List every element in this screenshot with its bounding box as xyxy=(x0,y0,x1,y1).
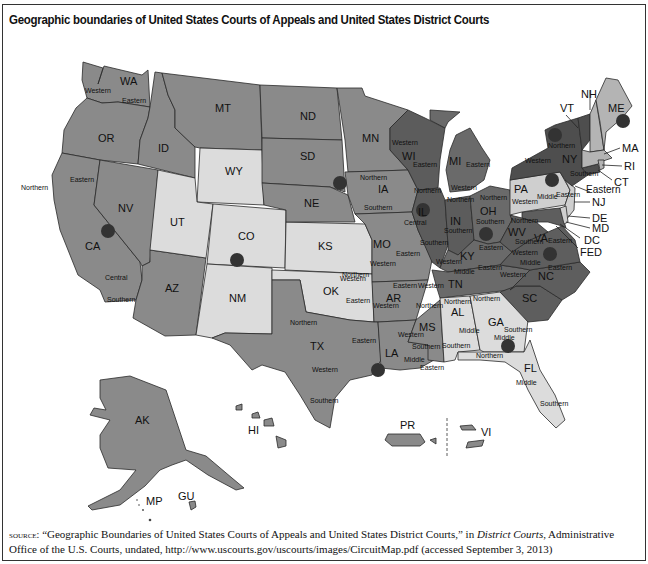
label-FL: FL xyxy=(524,362,537,374)
label-OK: OK xyxy=(323,285,340,297)
label-PA: PA xyxy=(514,183,529,195)
label-IA: IA xyxy=(378,183,389,195)
label-MD: MD xyxy=(592,222,609,234)
district-CA-central: Central xyxy=(105,274,128,281)
label-ID: ID xyxy=(158,142,169,154)
district-KY-western: Western xyxy=(436,258,462,265)
circuit-marker-10[interactable] xyxy=(230,253,244,267)
district-VA-eastern: Eastern xyxy=(548,237,572,244)
state-AK[interactable] xyxy=(88,376,244,510)
state-OR[interactable] xyxy=(62,98,150,164)
district-GA-northern: Northern xyxy=(473,295,500,302)
district-AR-eastern: Eastern xyxy=(393,282,417,289)
district-MI-western: Western xyxy=(451,184,477,191)
district-FL-middle: Middle xyxy=(516,379,537,386)
label-MP: MP xyxy=(146,495,163,507)
district-WA-eastern: Eastern xyxy=(122,97,146,104)
circuit-marker-4[interactable] xyxy=(543,247,557,261)
label-IN: IN xyxy=(450,215,461,227)
circuit-marker-2[interactable] xyxy=(548,128,562,142)
district-AL-southern: Southern xyxy=(442,342,471,349)
label-WY: WY xyxy=(225,165,243,177)
district-TX-eastern: Eastern xyxy=(352,337,376,344)
district-AL-northern: Northern xyxy=(444,298,471,305)
label-SC: SC xyxy=(522,292,537,304)
district-CA-southern: Southern xyxy=(107,296,136,303)
district-IN-southern: Southern xyxy=(444,227,473,234)
district-TN-eastern: Eastern xyxy=(478,264,502,271)
district-FL-northern: Northern xyxy=(476,352,503,359)
label-OH: OH xyxy=(480,205,497,217)
district-GA-middle: Middle xyxy=(494,334,515,341)
circuit-marker-9[interactable] xyxy=(101,224,115,238)
circuit-marker-5[interactable] xyxy=(371,363,385,377)
state-PR[interactable] xyxy=(385,434,436,446)
label-NE: NE xyxy=(304,197,319,209)
district-LA-eastern: Eastern xyxy=(420,364,444,371)
district-TX-southern: Southern xyxy=(310,397,339,404)
district-WV-southern: Southern xyxy=(515,238,544,245)
label-DC: DC xyxy=(584,234,600,246)
label-KY: KY xyxy=(460,250,475,262)
district-NC-western: Western xyxy=(500,271,526,278)
label-VI: VI xyxy=(481,426,491,438)
label-NM: NM xyxy=(229,292,246,304)
circuit-marker-3[interactable] xyxy=(545,173,559,187)
district-TN-middle: Middle xyxy=(454,268,475,275)
district-NY-southern: Southern xyxy=(570,170,599,177)
label-TX: TX xyxy=(310,340,325,352)
district-TN-western: Western xyxy=(418,282,444,289)
label-TN: TN xyxy=(448,278,463,290)
circuit-marker-11[interactable] xyxy=(501,339,515,353)
label-AL: AL xyxy=(451,306,464,318)
label-CO: CO xyxy=(238,230,255,242)
state-HI[interactable] xyxy=(236,404,286,448)
label-NH: NH xyxy=(581,88,597,100)
circuit-marker-1[interactable] xyxy=(616,114,630,128)
district-KY-eastern: Eastern xyxy=(479,244,503,251)
label-AK: AK xyxy=(135,414,150,426)
district-LA-western: Western xyxy=(398,331,424,338)
label-IL: IL xyxy=(418,206,427,218)
label-AZ: AZ xyxy=(165,282,179,294)
label-FED: FED xyxy=(580,246,602,258)
circuit-marker-6[interactable] xyxy=(479,227,493,241)
label-MN: MN xyxy=(362,132,379,144)
state-GU[interactable] xyxy=(189,501,196,510)
source-quote: “Geographic Boundaries of United States … xyxy=(42,528,477,540)
district-MI-eastern: Eastern xyxy=(466,161,490,168)
district-OK-eastern: Eastern xyxy=(346,297,370,304)
district-NC-middle: Middle xyxy=(520,259,541,266)
circuit-marker-8[interactable] xyxy=(333,176,347,190)
district-PA-middle: Middle xyxy=(537,193,558,200)
district-GA-southern: Southern xyxy=(504,326,533,333)
district-IN-northern: Northern xyxy=(447,196,474,203)
label-NY: NY xyxy=(562,153,578,165)
district-WV-northern: Northern xyxy=(511,217,538,224)
district-WI-eastern: Eastern xyxy=(413,161,437,168)
label-NJ: NJ xyxy=(592,196,605,208)
label-GU: GU xyxy=(178,490,195,502)
district-PA-western: Western xyxy=(512,198,538,205)
label-MA: MA xyxy=(622,142,639,154)
label-UT: UT xyxy=(170,216,185,228)
label-ME: ME xyxy=(608,102,625,114)
district-OH-northern: Northern xyxy=(480,194,507,201)
district-PA-eastern: Eastern xyxy=(556,191,580,198)
label-HI: HI xyxy=(248,424,259,436)
label-WA: WA xyxy=(120,75,138,87)
district-TX-western: Western xyxy=(312,366,338,373)
district-NY-eastern: Eastern xyxy=(586,184,620,195)
source-note: source: “Geographic Boundaries of United… xyxy=(9,527,639,556)
district-AL-middle: Middle xyxy=(459,327,480,334)
district-CA-eastern: Eastern xyxy=(70,176,94,183)
district-IL-southern: Southern xyxy=(420,239,449,246)
district-TX-northern: Northern xyxy=(290,319,317,326)
label-MI: MI xyxy=(449,155,461,167)
label-VT: VT xyxy=(560,102,574,114)
district-MO-western: Western xyxy=(370,260,396,267)
district-WI-western: Western xyxy=(392,139,418,146)
state-FL[interactable] xyxy=(458,340,565,428)
source-publication: District Courts xyxy=(477,528,543,540)
district-LA-middle: Middle xyxy=(404,356,425,363)
